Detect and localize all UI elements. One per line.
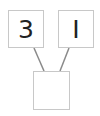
node-left-label: 3 <box>18 17 34 42</box>
node-bottom <box>33 71 70 110</box>
node-right-label: I <box>72 17 79 42</box>
edge-right-to-bottom <box>60 48 69 71</box>
edge-left-to-bottom <box>34 48 44 71</box>
node-left: 3 <box>8 10 44 48</box>
node-right: I <box>58 10 94 48</box>
